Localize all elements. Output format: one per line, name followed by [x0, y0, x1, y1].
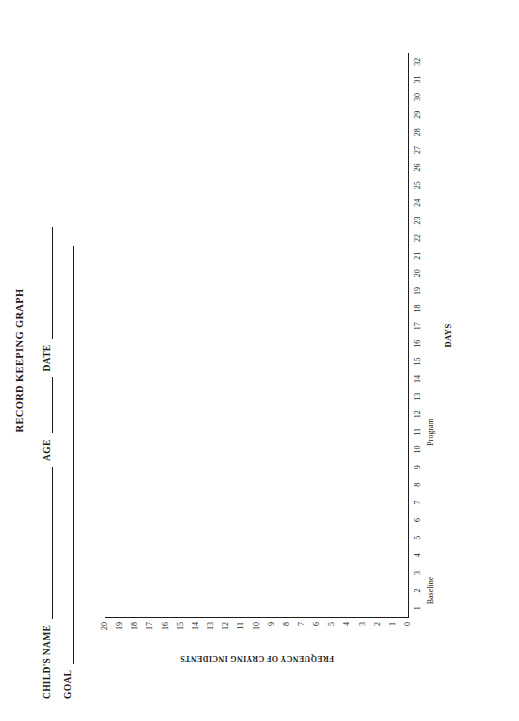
x-axis-tick-label: 26 — [413, 164, 422, 172]
age-label: AGE — [42, 439, 53, 461]
y-axis-tick-label: 17 — [146, 622, 154, 630]
y-axis-tick-label: 13 — [207, 622, 215, 630]
x-axis-tick-label: 20 — [413, 269, 422, 277]
x-axis-tick-label: 12 — [413, 410, 422, 418]
x-axis-tick-label: 5 — [413, 536, 422, 540]
y-axis-tick-label: 5 — [328, 622, 336, 626]
y-axis-tick-label: 10 — [253, 622, 261, 630]
x-axis-tick-label: 2 — [413, 589, 422, 593]
phase-caption: Baseline — [426, 577, 435, 605]
y-axis-tick-label: 6 — [313, 622, 321, 626]
goal-label: GOAL — [63, 670, 74, 699]
y-axis-tick-label: 12 — [222, 622, 230, 630]
x-axis-tick-label: 3 — [413, 571, 422, 575]
x-axis-tick-label: 7 — [413, 500, 422, 504]
y-axis-tick-label: 14 — [192, 622, 200, 630]
x-axis-tick-label: 27 — [413, 146, 422, 154]
field-row-goal: GOAL — [63, 240, 74, 699]
y-axis-tick-label: 20 — [101, 622, 109, 630]
plot-area[interactable]: 0123456789101112131415161718192012345678… — [105, 53, 409, 618]
x-axis-tick-label: 28 — [413, 128, 422, 136]
x-axis-tick-label: 31 — [413, 75, 422, 83]
x-axis-tick-label: 17 — [413, 322, 422, 330]
y-axis-tick-label: 8 — [283, 622, 291, 626]
goal-input[interactable] — [63, 246, 74, 664]
y-axis-tick-label: 3 — [359, 622, 367, 626]
x-axis-tick-label: 22 — [413, 234, 422, 242]
y-axis-tick-label: 7 — [298, 622, 306, 626]
record-keeping-chart: 0123456789101112131415161718192012345678… — [99, 40, 455, 665]
x-axis-tick-label: 4 — [413, 553, 422, 557]
x-axis-tick-label: 15 — [413, 357, 422, 365]
y-axis-tick-label: 19 — [116, 622, 124, 630]
x-axis-tick-label: 6 — [413, 518, 422, 522]
y-axis-tick-label: 2 — [374, 622, 382, 626]
y-axis-title: FREQUENCY OF CRYING INCIDENTS — [105, 649, 409, 663]
y-axis-tick-label: 1 — [389, 622, 397, 626]
x-axis-tick-label: 9 — [413, 465, 422, 469]
field-row-identity: CHILD'S NAME AGE DATE — [42, 221, 53, 699]
x-axis-tick-label: 13 — [413, 393, 422, 401]
y-axis-tick-label: 11 — [237, 622, 245, 630]
x-axis-tick-label: 21 — [413, 252, 422, 260]
scanned-page: RECORD KEEPING GRAPH CHILD'S NAME AGE DA… — [0, 0, 519, 721]
y-axis-tick-label: 16 — [162, 622, 170, 630]
x-axis-tick-label: 11 — [413, 428, 422, 436]
x-axis-tick-label: 29 — [413, 111, 422, 119]
x-axis-tick-label: 18 — [413, 305, 422, 313]
y-axis-tick-label: 15 — [177, 622, 185, 630]
date-input[interactable] — [42, 227, 53, 339]
y-axis-tick-label: 0 — [404, 622, 412, 626]
record-keeping-worksheet: RECORD KEEPING GRAPH CHILD'S NAME AGE DA… — [0, 0, 519, 721]
x-axis-tick-label: 24 — [413, 199, 422, 207]
phase-caption: Program — [426, 418, 435, 446]
x-axis-tick-label: 8 — [413, 483, 422, 487]
x-axis-title: DAYS — [443, 53, 453, 618]
childs-name-label: CHILD'S NAME — [42, 625, 53, 699]
date-label: DATE — [42, 345, 53, 372]
childs-name-input[interactable] — [42, 467, 53, 619]
x-axis-tick-label: 14 — [413, 375, 422, 383]
x-axis-tick-label: 23 — [413, 216, 422, 224]
age-input[interactable] — [42, 377, 53, 433]
x-axis-tick-label: 30 — [413, 93, 422, 101]
x-axis-tick-label: 1 — [413, 606, 422, 610]
x-axis-tick-label: 16 — [413, 340, 422, 348]
x-axis-tick-label: 19 — [413, 287, 422, 295]
x-axis-tick-label: 10 — [413, 446, 422, 454]
x-axis-tick-label: 32 — [413, 58, 422, 66]
y-axis-tick-label: 18 — [131, 622, 139, 630]
x-axis-tick-label: 25 — [413, 181, 422, 189]
page-title: RECORD KEEPING GRAPH — [14, 0, 25, 721]
y-axis-tick-label: 9 — [268, 622, 276, 626]
y-axis-tick-label: 4 — [343, 622, 351, 626]
